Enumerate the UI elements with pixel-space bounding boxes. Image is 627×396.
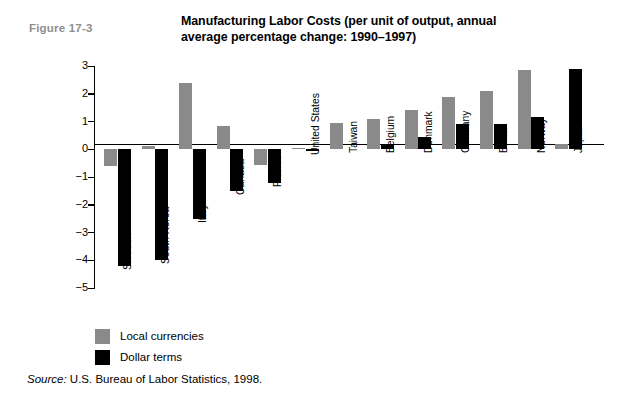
bar-local[interactable] [330,123,343,149]
y-axis-tick-label: 3 [66,59,88,71]
bar-local[interactable] [442,97,455,150]
bar-local[interactable] [104,149,117,166]
bar-group [367,66,394,288]
y-axis-tick [88,260,95,261]
bar-local[interactable] [217,126,230,150]
legend-label-local: Local currencies [120,329,204,344]
y-axis-tick [88,121,95,122]
x-axis-label: Denmark [423,111,434,153]
y-axis-tick [88,93,95,94]
x-axis-label: Norway [536,118,547,153]
bar-group [330,66,357,288]
y-axis-tick-label: −4 [66,253,88,265]
x-axis-label: Canada [235,159,246,195]
legend-label-dollar: Dollar terms [120,350,182,365]
bar-group [480,66,507,288]
y-axis-tick-label: −1 [66,170,88,182]
source-label: Source: [27,373,67,385]
x-axis-label: Japan [573,125,584,153]
bar-group [518,66,545,288]
x-axis-label: Britain [498,124,509,153]
bar-local[interactable] [179,83,192,150]
bar-local[interactable] [254,149,267,164]
source-value: U.S. Bureau of Labor Statistics, 1998. [67,373,263,385]
legend-swatch-dollar [95,350,110,365]
y-axis-tick-label: 1 [66,115,88,127]
bar-group [442,66,469,288]
source-note: Source: U.S. Bureau of Labor Statistics,… [27,373,262,385]
x-axis-label: Sweden [122,233,133,270]
bar-local[interactable] [405,110,418,149]
bar-local[interactable] [367,119,380,150]
y-axis-tick [88,232,95,233]
y-axis-tick-labels: 3210−1−2−3−4−5 [58,66,88,288]
x-axis-label: Germany [460,111,471,153]
x-axis-label: South Korea [160,207,171,264]
x-axis-label: Italy [197,204,208,223]
y-axis-tick [88,66,95,67]
x-axis-label: Taiwan [348,121,359,153]
chart-title: Manufacturing Labor Costs (per unit of o… [181,14,511,45]
x-axis-label: United States [310,93,321,155]
bar-local[interactable] [518,70,531,149]
bar-group [179,66,206,288]
bar-local[interactable] [142,146,155,149]
y-axis-tick-label: 0 [66,142,88,154]
legend-swatch-local [95,329,110,344]
bar-local[interactable] [555,144,568,150]
y-axis-tick [88,288,95,289]
figure-number: Figure 17-3 [29,22,93,34]
bar-group [555,66,582,288]
bar-group [405,66,432,288]
y-axis-tick-label: 2 [66,87,88,99]
figure-container: Figure 17-3 Manufacturing Labor Costs (p… [0,0,627,396]
y-axis-tick [88,177,95,178]
x-axis-label: France [272,154,283,186]
y-axis-tick [88,149,95,150]
bar-local[interactable] [480,91,493,149]
x-axis-label: Belgium [385,116,396,153]
bar-local[interactable] [292,148,305,149]
y-axis-tick-label: −3 [66,226,88,238]
y-axis-tick-label: −2 [66,198,88,210]
y-axis-tick-label: −5 [66,281,88,293]
y-axis-tick [88,204,95,205]
